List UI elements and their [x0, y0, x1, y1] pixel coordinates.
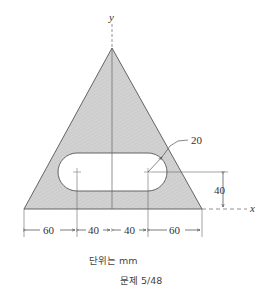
diagram-canvas: y x 20 40 60 40 40 60	[0, 0, 273, 290]
x-axis-label: x	[249, 202, 255, 214]
dim-bottom-4: 60	[169, 224, 181, 236]
dim-bottom-2: 40	[88, 224, 100, 236]
y-axis-label: y	[108, 11, 114, 23]
slot-height-dimension: 40	[214, 184, 226, 196]
dim-bottom-3: 40	[124, 224, 136, 236]
radius-dimension: 20	[191, 134, 203, 146]
units-note: 단위는 mm	[89, 253, 138, 267]
problem-label: 문제 5/48	[120, 273, 162, 287]
dim-bottom-1: 60	[43, 224, 55, 236]
